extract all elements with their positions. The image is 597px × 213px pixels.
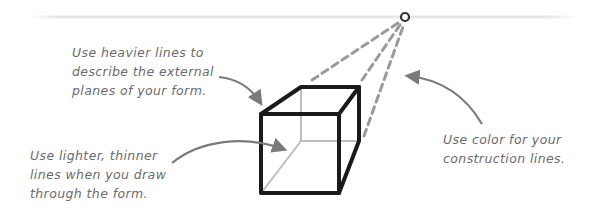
- annotation-line: Use lighter, thinner: [30, 146, 166, 165]
- construction-line-bottom-right: [364, 24, 404, 136]
- horizon-line: [30, 16, 575, 19]
- construction-line-top-right: [362, 22, 402, 80]
- annotation-heavier-lines: Use heavier lines to describe the extern…: [72, 43, 214, 100]
- annotation-construction-color: Use color for your construction lines.: [443, 130, 565, 168]
- annotation-line: construction lines.: [443, 149, 565, 168]
- vanishing-point-icon: [401, 13, 409, 21]
- annotation-line: Use heavier lines to: [72, 43, 214, 62]
- annotation-line: describe the external: [72, 62, 214, 81]
- annotation-line: through the form.: [30, 184, 166, 203]
- annotation-line: lines when you draw: [30, 165, 166, 184]
- cube-top-face: [261, 87, 359, 114]
- arrow-lighter-lines-icon: [172, 141, 283, 163]
- construction-line-top-left: [312, 21, 401, 80]
- arrow-construction-color-icon: [409, 76, 482, 124]
- annotation-line: Use color for your: [443, 130, 565, 149]
- arrow-heavier-lines-icon: [219, 77, 260, 102]
- annotation-lighter-lines: Use lighter, thinner lines when you draw…: [30, 146, 166, 203]
- annotation-line: planes of your form.: [72, 81, 214, 100]
